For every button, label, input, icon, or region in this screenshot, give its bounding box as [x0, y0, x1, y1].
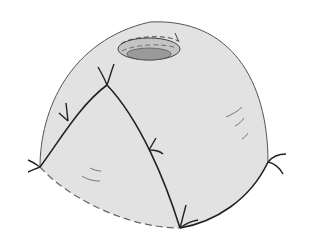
arrow-left-vertex-icon: [28, 160, 40, 172]
arrow-right-vertex-icon: [268, 154, 286, 174]
dome-diagram: [0, 0, 311, 243]
dome-surface-figure: [0, 0, 311, 243]
